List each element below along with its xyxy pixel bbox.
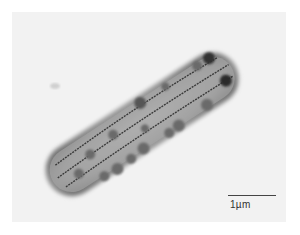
bacterial-cell [36,43,251,210]
micrograph-image [0,0,300,235]
scale-bar [228,195,276,196]
scale-bar-label: 1µm [230,199,251,210]
debris-particle [50,83,60,89]
